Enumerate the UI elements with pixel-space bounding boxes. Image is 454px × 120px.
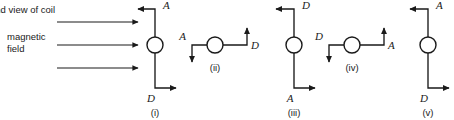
diagram-v-bottom-label: D — [419, 92, 428, 104]
diagram-iv — [329, 28, 384, 62]
diagram-iii-bottom-label: A — [286, 92, 294, 104]
diagram-iv-right-lead — [360, 28, 384, 45]
diagram-iii-coil-end-view — [286, 37, 302, 53]
diagram-iii — [276, 9, 315, 88]
end-view-of-coil-caption: end view of coil — [0, 4, 55, 15]
diagram-iv-caption: (iv) — [345, 62, 358, 73]
diagram-iv-right-label: A — [387, 39, 395, 51]
diagram-i-lower-lead — [155, 53, 176, 88]
diagram-ii-coil-end-view — [207, 37, 223, 53]
diagram-ii — [192, 28, 247, 62]
diagram-ii-left-lead — [192, 45, 207, 62]
diagram-v — [410, 9, 449, 88]
diagram-v-lower-lead — [428, 53, 449, 88]
diagram-iii-upper-lead — [276, 9, 294, 37]
diagram-v-coil-end-view — [420, 37, 436, 53]
diagram-v-caption: (v) — [422, 107, 433, 118]
diagram-ii-right-label: D — [250, 39, 259, 51]
diagram-i-coil-end-view — [147, 37, 163, 53]
diagram-i-top-label: A — [162, 0, 170, 11]
diagram-iv-left-label: D — [314, 30, 323, 42]
diagram-ii-caption: (ii) — [210, 62, 221, 73]
physics-coil-diagram-figure: end view of coil magnetic field A D (i) … — [0, 0, 454, 120]
diagram-i-upper-lead — [138, 9, 155, 37]
diagram-i — [138, 9, 176, 88]
diagram-canvas: end view of coil magnetic field A D (i) … — [0, 0, 454, 120]
diagram-v-top-label: A — [435, 0, 443, 11]
diagram-ii-left-label: A — [178, 30, 186, 42]
diagram-ii-right-lead — [223, 28, 247, 45]
diagram-iii-lower-lead — [294, 53, 315, 88]
diagram-i-bottom-label: D — [146, 92, 155, 104]
diagram-v-upper-lead — [410, 9, 428, 37]
diagram-iii-caption: (iii) — [288, 107, 301, 118]
diagram-iv-coil-end-view — [344, 37, 360, 53]
diagram-iii-top-label: D — [301, 0, 310, 11]
diagram-iv-left-lead — [329, 45, 344, 62]
magnetic-field-caption-line1: magnetic — [7, 31, 46, 42]
diagram-i-caption: (i) — [151, 107, 159, 118]
magnetic-field-caption-line2: field — [7, 43, 24, 54]
magnetic-field-arrows — [57, 22, 138, 68]
